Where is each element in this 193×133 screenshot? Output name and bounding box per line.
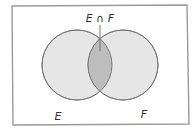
intersection-label: E ∩ F [86, 12, 115, 25]
set-e-label: E [55, 110, 62, 123]
venn-diagram: E ∩ F E F [0, 0, 193, 133]
set-f-label: F [141, 108, 148, 121]
